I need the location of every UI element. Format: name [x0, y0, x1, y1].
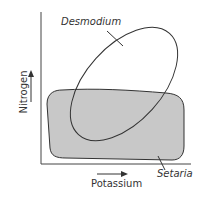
- arrow-right-icon: [97, 171, 128, 177]
- setaria-label: Setaria: [157, 168, 193, 179]
- desmodium-leader: [107, 31, 123, 46]
- arrow-up-icon: [28, 70, 34, 102]
- x-axis-label: Potassium: [91, 178, 142, 189]
- niche-diagram: Desmodium Setaria Potassium Nitrogen: [0, 0, 201, 199]
- desmodium-label: Desmodium: [61, 16, 121, 27]
- setaria-region: [47, 89, 184, 160]
- y-axis-label: Nitrogen: [18, 74, 29, 114]
